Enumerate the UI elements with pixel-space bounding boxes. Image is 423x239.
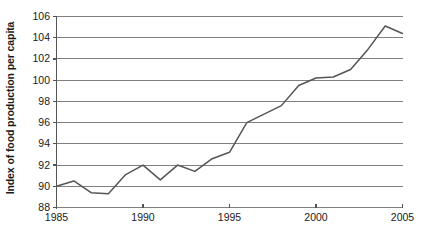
x-tick-label-2005: 2005	[391, 212, 414, 223]
series-line-food-production-index	[57, 26, 403, 194]
x-tick-label-1990: 1990	[131, 212, 154, 223]
plot-area	[0, 0, 423, 239]
x-axis-ticks	[57, 204, 403, 208]
x-tick-label-2000: 2000	[304, 212, 327, 223]
chart-container: Index of food production per capita 8890…	[0, 0, 423, 239]
x-tick-label-1995: 1995	[218, 212, 241, 223]
data-series-line	[57, 26, 403, 194]
axes	[53, 17, 57, 209]
gridlines	[57, 17, 404, 208]
x-tick-label-1985: 1985	[45, 212, 68, 223]
